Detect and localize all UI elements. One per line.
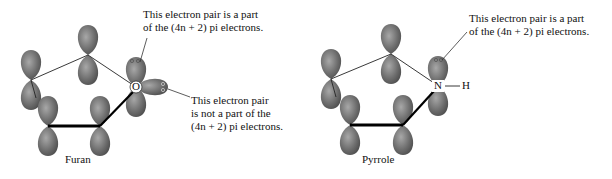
annotation-line: of the (4n + 2) pi electrons.: [143, 21, 263, 34]
annotation-line: (4n + 2) pi electrons.: [191, 120, 283, 133]
pyrrole-substituent-label: H: [462, 79, 470, 92]
annotation-line: This electron pair is a part: [469, 12, 589, 25]
pyrrole-molecule: [321, 24, 467, 155]
pyrrole-heteroatom-label: N: [434, 79, 442, 92]
furan-annotation-right: This electron pair is not a part of the …: [191, 94, 283, 133]
furan-heteroatom-label: O: [132, 80, 140, 93]
furan-name: Furan: [65, 153, 91, 165]
pyrrole-annotation-top: This electron pair is a part of the (4n …: [469, 12, 589, 38]
pyrrole-name: Pyrrole: [362, 153, 394, 165]
annotation-line: This electron pair is a part: [143, 8, 263, 21]
annotation-line: of the (4n + 2) pi electrons.: [469, 25, 589, 38]
furan-annotation-top: This electron pair is a part of the (4n …: [143, 8, 263, 34]
annotation-line: is not a part of the: [191, 107, 283, 120]
furan-molecule: [21, 25, 190, 156]
annotation-line: This electron pair: [191, 94, 283, 107]
